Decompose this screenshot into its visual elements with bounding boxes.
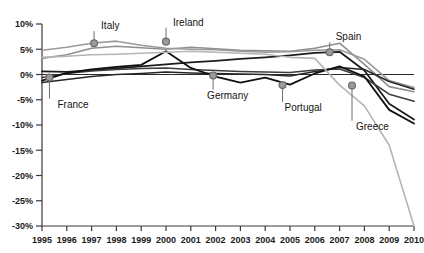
y-tick-label: -25%	[12, 196, 33, 206]
x-tick-label: 2007	[330, 235, 350, 245]
x-tick-label: 2003	[230, 235, 250, 245]
callout-label-greece: Greece	[356, 121, 389, 132]
x-tick-label: 1998	[106, 235, 126, 245]
x-tick-label: 2004	[255, 235, 275, 245]
callout-label-spain: Spain	[336, 31, 362, 42]
series-line-portugal	[42, 51, 414, 123]
x-tick-label: 1996	[57, 235, 77, 245]
x-tick-label: 2010	[404, 235, 424, 245]
line-chart: 10%5%0%-5%-10%-15%-20%-25%-30% 199519961…	[0, 0, 424, 253]
x-tick-label: 1999	[131, 235, 151, 245]
series-line-greece	[42, 51, 414, 226]
callout-label-portugal: Portugal	[285, 102, 322, 113]
y-tick-label: 10%	[15, 19, 33, 29]
x-tick-label: 2001	[181, 235, 201, 245]
callout-marker-ireland	[163, 38, 170, 45]
y-tick-label: -10%	[12, 120, 33, 130]
x-tick-label: 2005	[280, 235, 300, 245]
y-tick-label: -5%	[17, 95, 33, 105]
y-tick-label: -15%	[12, 146, 33, 156]
y-tick-label: 0%	[20, 70, 33, 80]
x-tick-label: 2000	[156, 235, 176, 245]
y-tick-label: -30%	[12, 221, 33, 231]
callout-label-italy: Italy	[101, 20, 119, 31]
callout-marker-germany	[210, 72, 217, 79]
callout-label-germany: Germany	[207, 90, 248, 101]
x-tick-label: 2008	[354, 235, 374, 245]
x-axis-ticks: 1995199619971998199920002001200220032004…	[32, 226, 424, 245]
x-tick-label: 2009	[379, 235, 399, 245]
callout-label-france: France	[57, 99, 89, 110]
callout-label-ireland: Ireland	[173, 17, 204, 28]
callout-marker-france	[46, 74, 53, 81]
y-axis-ticks: 10%5%0%-5%-10%-15%-20%-25%-30%	[12, 19, 42, 231]
x-tick-label: 2002	[206, 235, 226, 245]
series-line-spain	[42, 52, 414, 120]
chart-container: 10%5%0%-5%-10%-15%-20%-25%-30% 199519961…	[0, 0, 424, 253]
x-tick-label: 2006	[305, 235, 325, 245]
y-tick-label: 5%	[20, 45, 33, 55]
y-tick-label: -20%	[12, 171, 33, 181]
x-tick-label: 1995	[32, 235, 52, 245]
callout-marker-greece	[349, 82, 356, 89]
callout-marker-portugal	[279, 82, 286, 89]
callout-marker-italy	[91, 40, 98, 47]
series-lines	[42, 41, 414, 226]
x-tick-label: 1997	[82, 235, 102, 245]
callout-marker-spain	[326, 49, 333, 56]
